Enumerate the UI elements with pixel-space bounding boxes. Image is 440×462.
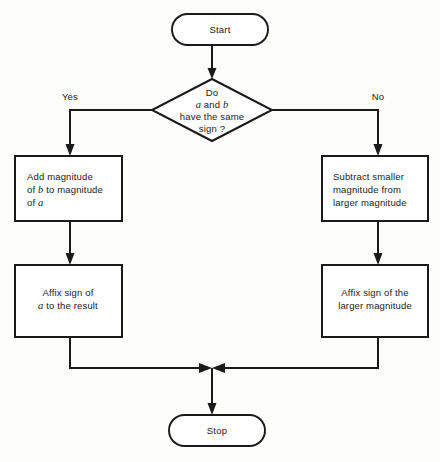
decision-var-b: b: [223, 99, 228, 110]
stop-label: Stop: [207, 425, 227, 436]
left-box-top-var-a: a: [38, 197, 43, 208]
node-left-box-bottom: Affix sign of a to the result: [15, 265, 122, 337]
branch-label-yes: Yes: [62, 91, 78, 102]
connector-left-to-merge: [70, 337, 200, 368]
branch-label-no: No: [372, 91, 385, 102]
decision-line-2: a and b: [196, 99, 229, 110]
arrowhead-into-right-box-bottom: [374, 253, 383, 265]
left-box-top-line-2-pre: of: [27, 184, 38, 195]
left-box-top-line-1: Add magnitude: [27, 171, 93, 182]
arrowhead-into-left-box-bottom: [66, 253, 75, 265]
connector-right-to-merge: [224, 337, 378, 368]
decision-line-4: sign ?: [199, 123, 225, 134]
left-box-bottom-line-2: a to the result: [38, 300, 98, 311]
left-box-top-line-2: of b to magnitude: [27, 184, 103, 195]
decision-line-3: have the same: [180, 111, 244, 122]
start-label: Start: [209, 24, 230, 35]
arrowhead-into-left-box-top: [66, 144, 75, 156]
arrowhead-into-stop: [208, 403, 217, 415]
decision-line-1: Do: [206, 87, 218, 98]
left-box-bottom-line-2-post: to the result: [44, 300, 99, 311]
node-left-box-top: Add magnitude of b to magnitude of a: [15, 156, 122, 221]
right-box-bottom-line-1: Affix sign of the: [341, 287, 408, 298]
left-box-bottom-line-1: Affix sign of: [43, 287, 94, 298]
connector-no-branch: [272, 110, 378, 148]
arrowhead-merge-from-right: [212, 363, 225, 373]
right-box-top-line-1: Subtract smaller: [333, 171, 404, 182]
node-right-box-bottom: Affix sign of the larger magnitude: [322, 265, 428, 337]
left-box-top-line-2-post: to magnitude: [43, 184, 103, 195]
decision-conjunction: and: [201, 99, 223, 110]
right-box-top-line-2: magnitude from: [333, 184, 401, 195]
left-box-top-line-3-pre: of: [27, 197, 38, 208]
right-box-bottom-line-2: larger magnitude: [338, 300, 412, 311]
node-right-box-top: Subtract smaller magnitude from larger m…: [322, 156, 428, 221]
node-start: Start: [172, 14, 268, 45]
node-decision: Do a and b have the same sign ?: [152, 79, 272, 141]
left-box-top-line-3: of a: [27, 197, 43, 208]
flowchart-diagram: Start Do a and b have the same sign ? Ye…: [0, 0, 440, 462]
arrowhead-into-decision: [208, 68, 217, 79]
node-stop: Stop: [169, 415, 265, 446]
connector-yes-branch: [70, 110, 152, 148]
arrowhead-merge-from-left: [199, 363, 212, 373]
arrowhead-into-right-box-top: [374, 144, 383, 156]
right-box-top-line-3: larger magnitude: [333, 197, 407, 208]
flowchart-canvas: Start Do a and b have the same sign ? Ye…: [0, 0, 440, 462]
